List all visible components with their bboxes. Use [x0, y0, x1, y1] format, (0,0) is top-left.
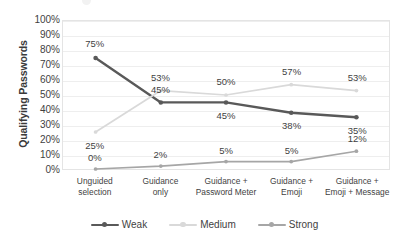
- legend-label: Medium: [200, 219, 236, 230]
- value-label-weak: 45%: [151, 85, 170, 95]
- value-label-strong: 12%: [348, 134, 367, 144]
- y-tick-label: 80%: [20, 45, 60, 55]
- value-label-weak: 45%: [216, 111, 235, 121]
- y-tick-label: 30%: [20, 120, 60, 130]
- value-label-strong: 5%: [219, 146, 233, 156]
- data-point-strong: [94, 167, 98, 171]
- y-tick-label: 100%: [20, 15, 60, 25]
- y-tick-label: 10%: [20, 150, 60, 160]
- value-label-medium: 53%: [151, 73, 170, 83]
- value-label-medium: 53%: [348, 73, 367, 83]
- value-label-strong: 2%: [154, 150, 168, 160]
- value-label-weak: 38%: [282, 121, 301, 131]
- data-point-medium: [224, 93, 228, 97]
- legend-label: Strong: [289, 219, 318, 230]
- data-point-strong: [159, 164, 163, 168]
- data-point-medium: [94, 130, 98, 134]
- data-point-strong: [289, 160, 293, 164]
- medium-legend-marker: [169, 220, 197, 230]
- value-label-weak: 75%: [85, 39, 104, 49]
- y-axis-tick-labels: 100%90%80%70%60%50%40%30%20%10%0%: [16, 0, 60, 242]
- y-tick-label: 40%: [20, 105, 60, 115]
- value-label-strong: 0%: [88, 153, 102, 163]
- legend-item-medium[interactable]: Medium: [169, 219, 236, 230]
- chart-legend: WeakMediumStrong: [0, 219, 409, 230]
- value-label-medium: 57%: [282, 67, 301, 77]
- line-chart: Qualifying Passwords 100%90%80%70%60%50%…: [0, 0, 409, 242]
- y-tick-label: 70%: [20, 60, 60, 70]
- data-point-weak: [289, 110, 294, 115]
- y-tick-label: 90%: [20, 30, 60, 40]
- series-line-medium: [96, 85, 357, 132]
- data-point-weak: [224, 100, 229, 105]
- strong-legend-marker: [258, 220, 286, 230]
- data-point-medium: [355, 89, 359, 93]
- data-point-weak: [93, 56, 98, 61]
- legend-label: Weak: [122, 219, 147, 230]
- y-tick-label: 60%: [20, 75, 60, 85]
- value-label-medium: 50%: [216, 77, 235, 87]
- data-point-weak: [354, 115, 359, 120]
- data-point-weak: [159, 100, 164, 105]
- y-tick-label: 20%: [20, 135, 60, 145]
- value-label-medium: 25%: [85, 141, 104, 151]
- x-category-label-line: Emoji + Message: [314, 187, 400, 198]
- data-point-strong: [355, 149, 359, 153]
- y-tick-label: 0%: [20, 165, 60, 175]
- legend-item-weak[interactable]: Weak: [91, 219, 147, 230]
- weak-legend-marker: [91, 220, 119, 230]
- x-category-label-line: Guidance +: [314, 176, 400, 187]
- data-point-strong: [224, 160, 228, 164]
- value-label-strong: 5%: [285, 146, 299, 156]
- legend-item-strong[interactable]: Strong: [258, 219, 318, 230]
- x-axis-category-labels: UnguidedselectionGuidanceonlyGuidance +P…: [62, 176, 390, 204]
- x-category-label: Guidance +Emoji + Message: [314, 176, 400, 197]
- data-point-medium: [289, 83, 293, 87]
- top-artifact: [82, 0, 91, 5]
- y-tick-label: 50%: [20, 90, 60, 100]
